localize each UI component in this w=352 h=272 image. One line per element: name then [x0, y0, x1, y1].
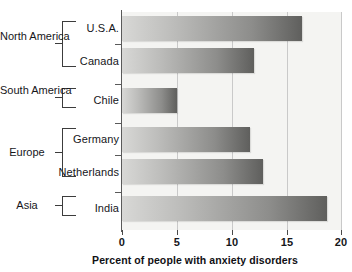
anxiety-disorders-bar-chart: U.S.A. Canada Chile Germany Netherlands …: [0, 0, 352, 272]
category-label-germany: Germany: [73, 133, 119, 145]
group-label-europe-text: Europe: [9, 146, 44, 158]
x-tick-label-5: 5: [157, 236, 197, 248]
x-tick-mark-0: [122, 230, 123, 235]
bar-netherlands: [122, 159, 263, 184]
bar-india: [122, 196, 327, 221]
x-tick-mark-20: [341, 230, 342, 235]
bar-chile: [122, 88, 177, 113]
x-tick-mark-10: [232, 230, 233, 235]
bracket-stem-north-america: [55, 43, 63, 44]
x-tick-label-15: 15: [267, 236, 307, 248]
bar-usa: [122, 16, 302, 41]
x-tick-label-20: 20: [321, 236, 352, 248]
x-tick-mark-5: [177, 230, 178, 235]
category-label-chile: Chile: [93, 94, 119, 106]
group-label-south-america: South America: [0, 84, 54, 97]
y-tick-2: [115, 84, 122, 85]
y-tick-3: [115, 123, 122, 124]
bar-canada: [122, 48, 254, 73]
category-label-usa: U.S.A.: [87, 22, 119, 34]
x-tick-label-10: 10: [212, 236, 252, 248]
bracket-stem-asia: [55, 205, 63, 206]
group-label-asia: Asia: [0, 199, 54, 212]
group-label-south-america-text: South America: [0, 84, 72, 96]
group-label-north-america-text: North America: [0, 30, 70, 42]
x-axis: 0 5 10 15 20 Percent of people with anxi…: [0, 230, 352, 272]
bar-germany: [122, 127, 250, 152]
x-axis-title: Percent of people with anxiety disorders: [0, 254, 352, 266]
bracket-stem-europe: [55, 152, 63, 153]
gridline-20: [341, 12, 342, 230]
bracket-europe: [62, 128, 76, 177]
bracket-asia: [62, 196, 76, 216]
x-tick-mark-15: [287, 230, 288, 235]
category-label-canada: Canada: [80, 55, 119, 67]
y-tick-5: [115, 192, 122, 193]
group-label-north-america: North America: [0, 30, 54, 43]
group-label-asia-text: Asia: [16, 199, 37, 211]
group-label-europe: Europe: [0, 146, 54, 159]
x-tick-label-0: 0: [102, 236, 142, 248]
bracket-stem-south-america: [55, 97, 63, 98]
y-tick-4: [115, 155, 122, 156]
bracket-north-america: [62, 21, 76, 67]
category-label-india: India: [95, 202, 119, 214]
y-tick-1: [115, 44, 122, 45]
